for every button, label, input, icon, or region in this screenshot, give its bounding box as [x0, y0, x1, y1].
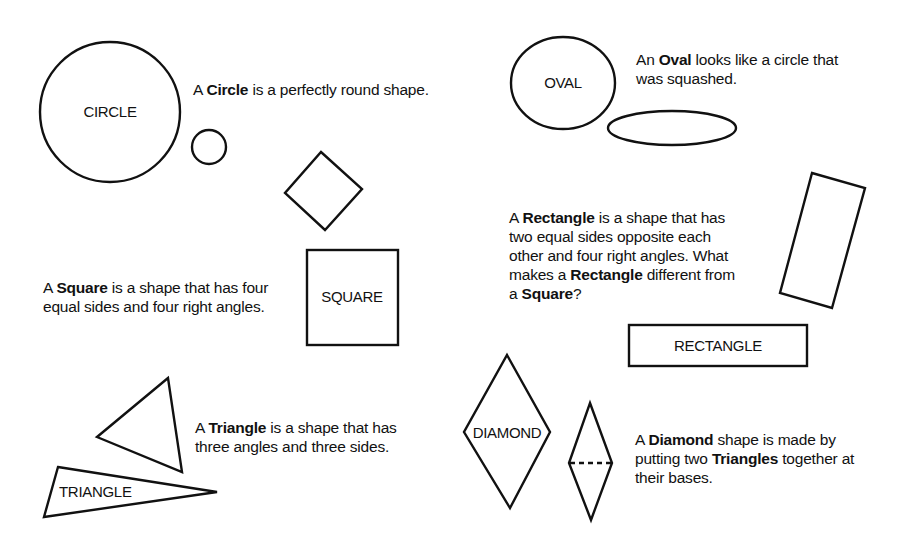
small-diamond-shape — [569, 403, 612, 520]
term-square: Square — [56, 279, 107, 296]
term-rectangle: Rectangle — [522, 209, 594, 226]
triangle-description: A Triangle is a shape that has three ang… — [195, 418, 397, 456]
term-oval: Oval — [659, 51, 692, 68]
text: is a perfectly round shape. — [248, 81, 429, 98]
text: shape is made by — [713, 431, 835, 448]
rectangle-description: A Rectangle is a shape that has two equa… — [509, 208, 735, 303]
flat-oval-shape — [608, 111, 736, 145]
text: A — [509, 209, 522, 226]
circle-description: A Circle is a perfectly round shape. — [193, 80, 429, 99]
text: two equal sides opposite each — [509, 227, 735, 246]
text: A — [43, 279, 56, 296]
term-square: Square — [522, 285, 573, 302]
shapes-worksheet: CIRCLE OVAL SQUARE RECTANGLE TRIANGLE DI… — [0, 0, 915, 552]
text: is a shape that has four — [108, 279, 268, 296]
text: A — [193, 81, 206, 98]
term-rectangle: Rectangle — [570, 266, 642, 283]
term-triangle: Triangle — [208, 419, 266, 436]
rectangle-label: RECTANGLE — [674, 337, 762, 354]
text: ? — [573, 285, 581, 302]
oval-description: An Oval looks like a circle that was squ… — [636, 50, 838, 88]
text: is a shape that has — [266, 419, 396, 436]
rotated-rectangle-shape — [780, 173, 865, 308]
text: their bases. — [635, 468, 854, 487]
text: A — [195, 419, 208, 436]
oval-label: OVAL — [544, 74, 582, 91]
term-circle: Circle — [206, 81, 248, 98]
text: other and four right angles. What — [509, 246, 735, 265]
square-description: A Square is a shape that has four equal … — [43, 278, 268, 316]
term-triangles: Triangles — [712, 450, 778, 467]
square-label: SQUARE — [321, 288, 383, 305]
circle-label: CIRCLE — [83, 103, 137, 120]
text: was squashed. — [636, 69, 838, 88]
triangle-shape — [97, 378, 182, 472]
text: An — [636, 51, 659, 68]
text: together at — [778, 450, 854, 467]
rotated-square-shape — [285, 152, 362, 230]
text: A — [635, 431, 648, 448]
text: is a shape that has — [595, 209, 725, 226]
diamond-label: DIAMOND — [473, 424, 542, 441]
text: putting two — [635, 450, 712, 467]
text: looks like a circle that — [691, 51, 838, 68]
text: equal sides and four right angles. — [43, 297, 268, 316]
small-circle-shape — [192, 130, 226, 164]
text: different from — [643, 266, 735, 283]
diamond-description: A Diamond shape is made by putting two T… — [635, 430, 854, 487]
text: three angles and three sides. — [195, 437, 397, 456]
text: makes a — [509, 266, 570, 283]
term-diamond: Diamond — [648, 431, 713, 448]
triangle-label: TRIANGLE — [59, 483, 132, 500]
text: a — [509, 285, 522, 302]
